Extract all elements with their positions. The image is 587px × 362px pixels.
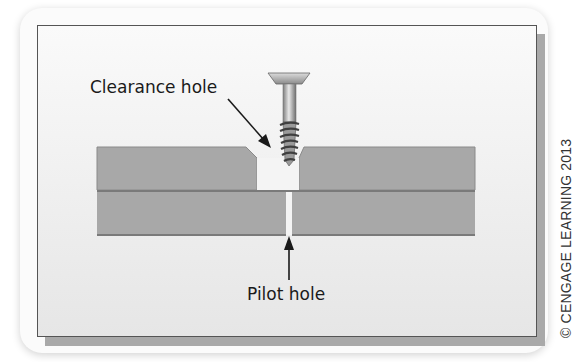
clearance-hole-label: Clearance hole: [90, 77, 217, 97]
bottom-board: [97, 192, 475, 235]
diagram-art: [0, 0, 587, 362]
clearance-hole-arrow: [228, 99, 271, 148]
copyright-notice: © CENGAGE LEARNING 2013: [558, 139, 574, 338]
pilot-hole-arrow: [284, 236, 294, 280]
pilot-hole-label: Pilot hole: [247, 284, 325, 304]
